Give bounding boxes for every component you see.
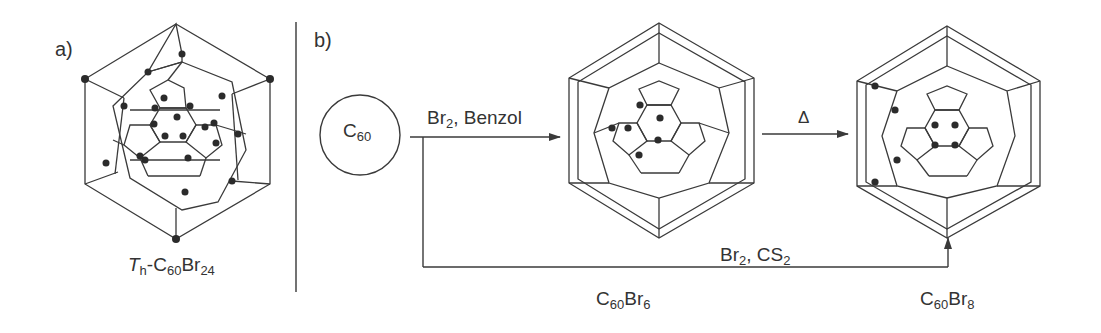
label-th-c60br24: Th-C60Br24	[128, 254, 215, 276]
label-br2-benzol: Br2, Benzol	[427, 107, 522, 129]
molecule-c60br24	[85, 24, 270, 239]
panel-b-label: b)	[314, 29, 332, 52]
label-c60: C60	[343, 120, 371, 142]
reaction-diagram-drawing	[0, 0, 1101, 333]
panel-a-label: a)	[55, 38, 73, 61]
molecule-c60br6	[569, 23, 754, 238]
bromine-dots-c60br8	[871, 82, 958, 185]
label-br2-cs2: Br2, CS2	[720, 244, 790, 266]
label-delta: Δ	[798, 108, 809, 128]
label-c60br8: C60Br8	[920, 288, 974, 310]
molecule-c60br8	[857, 26, 1040, 238]
label-c60br6: C60Br6	[596, 288, 650, 310]
